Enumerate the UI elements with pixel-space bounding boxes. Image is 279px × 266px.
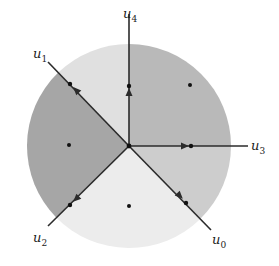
region-point xyxy=(127,204,131,208)
ray-point xyxy=(68,203,72,207)
region-cone-u4-u3 xyxy=(129,44,231,146)
label-u4: u4 xyxy=(123,6,137,24)
label-u2: u2 xyxy=(33,230,47,248)
region-point xyxy=(188,83,192,87)
region-point xyxy=(67,143,71,147)
ray-point xyxy=(68,82,72,86)
ray-point xyxy=(127,84,131,88)
ray-point xyxy=(189,144,193,148)
label-u3: u3 xyxy=(251,138,265,156)
fan-diagram: u0u1u2u3u4 xyxy=(0,0,279,266)
label-u0: u0 xyxy=(212,232,226,250)
origin-point xyxy=(127,144,132,149)
ray-point xyxy=(184,201,188,205)
label-u1: u1 xyxy=(33,46,47,64)
